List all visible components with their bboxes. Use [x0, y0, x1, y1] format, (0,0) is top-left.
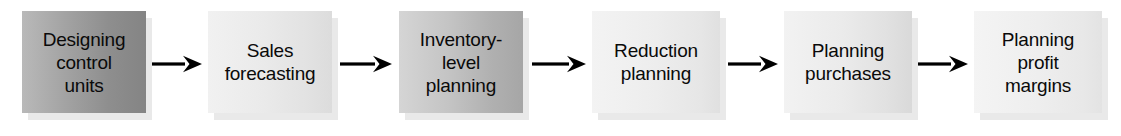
node-box: Planning purchases [784, 11, 912, 113]
process-node-reduction-planning[interactable]: Reduction planning [592, 11, 720, 113]
arrow-shaft [728, 62, 761, 65]
node-label: Designing control units [39, 28, 130, 97]
node-box: Planning profit margins [974, 11, 1102, 113]
process-node-planning-purchases[interactable]: Planning purchases [784, 11, 912, 113]
process-node-inventory-level-planning[interactable]: Inventory- level planning [399, 11, 523, 113]
connector-arrow-1 [152, 53, 202, 75]
arrow-head [373, 56, 392, 72]
node-box: Designing control units [22, 11, 146, 113]
node-label: Planning purchases [801, 39, 895, 85]
node-label: Reduction planning [610, 39, 702, 85]
node-label: Planning profit margins [998, 28, 1078, 97]
node-box: Reduction planning [592, 11, 720, 113]
node-label: Sales forecasting [221, 39, 320, 85]
node-box: Inventory- level planning [399, 11, 523, 113]
arrow-head [567, 56, 586, 72]
connector-arrow-5 [918, 53, 968, 75]
arrow-head [183, 56, 202, 72]
arrow-head [949, 56, 968, 72]
node-label: Inventory- level planning [416, 28, 506, 97]
process-node-sales-forecasting[interactable]: Sales forecasting [208, 11, 332, 113]
arrow-shaft [918, 62, 951, 65]
connector-arrow-3 [532, 53, 586, 75]
flow-diagram: Designing control unitsSales forecasting… [0, 0, 1121, 136]
connector-arrow-4 [728, 53, 778, 75]
connector-arrow-2 [340, 53, 392, 75]
node-box: Sales forecasting [208, 11, 332, 113]
arrow-shaft [152, 62, 185, 65]
arrow-shaft [532, 62, 569, 65]
arrow-head [759, 56, 778, 72]
arrow-shaft [340, 62, 375, 65]
process-node-designing-control-units[interactable]: Designing control units [22, 11, 146, 113]
process-node-planning-profit-margins[interactable]: Planning profit margins [974, 11, 1102, 113]
